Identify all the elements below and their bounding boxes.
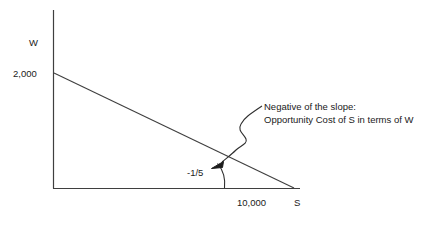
callout-annotation: Negative of the slope: Opportunity Cost …: [264, 100, 413, 126]
callout-leader-line: [222, 106, 262, 162]
callout-arrowhead: [212, 162, 224, 169]
callout-line-1: Negative of the slope:: [264, 100, 413, 113]
slope-value-label: -1/5: [187, 166, 203, 179]
callout-line-2: Opportunity Cost of S in terms of W: [264, 113, 413, 126]
figure-canvas: W 2,000 10,000 S -1/5 Negative of the sl…: [0, 0, 436, 225]
x-axis-tick-label: 10,000: [237, 196, 266, 209]
x-axis-label: S: [294, 196, 300, 209]
y-axis-tick-label: 2,000: [13, 67, 37, 80]
y-axis-label: W: [29, 36, 38, 49]
budget-line: [54, 73, 294, 188]
